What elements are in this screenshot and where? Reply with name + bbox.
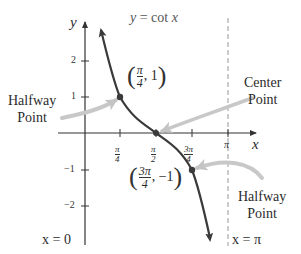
y-tick-m1: −1 xyxy=(64,163,75,174)
halfway-point-right xyxy=(189,167,195,173)
y-tick-1: 1 xyxy=(71,90,76,101)
x-tick-3pi-over-4: 3π4 xyxy=(184,138,193,164)
x-tick-pi: π xyxy=(224,139,229,150)
point-label-3pi-over-4: ( 3π4 , −1 ) xyxy=(129,164,182,190)
chart-title: y = cot x xyxy=(130,10,178,26)
halfway-point-left xyxy=(117,94,123,100)
x-tick-pi-over-2: π2 xyxy=(151,138,156,164)
x-axis-label: x xyxy=(252,136,259,153)
point-label-pi-over-4: ( π4 , 1 ) xyxy=(127,63,166,89)
annotation-halfway-left: Halfway Point xyxy=(8,92,56,126)
x-tick-pi-over-4: π4 xyxy=(115,138,120,164)
halfway-right-arrow xyxy=(197,163,262,178)
asymptote-label-x0: x = 0 xyxy=(42,232,71,248)
annotation-halfway-right: Halfway Point xyxy=(238,188,286,222)
halfway-left-arrow xyxy=(62,100,116,118)
y-axis-label: y xyxy=(70,14,77,31)
y-tick-m2: −2 xyxy=(64,199,75,210)
annotation-center-point: Center Point xyxy=(244,74,281,108)
center-point xyxy=(153,130,159,136)
asymptote-label-xpi: x = π xyxy=(232,232,261,248)
y-tick-2: 2 xyxy=(71,54,76,65)
center-arrow xyxy=(162,98,252,131)
